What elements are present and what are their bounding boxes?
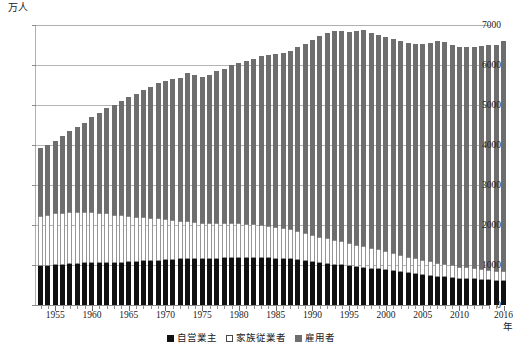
- bar-segment-family-worker: [126, 216, 131, 262]
- bar-segment-family-worker: [207, 223, 212, 259]
- x-axis-tick-label: 2010: [450, 310, 469, 321]
- bar-segment-self-employed: [259, 258, 264, 305]
- x-axis-tick-label: 1970: [156, 310, 175, 321]
- bar-segment-self-employed: [214, 259, 219, 305]
- bar-segment-employee: [148, 87, 153, 218]
- bar-segment-family-worker: [236, 223, 241, 257]
- bar-segment-family-worker: [457, 267, 462, 279]
- bar-segment-employee: [339, 31, 344, 241]
- chart-legend: 自営業主家族従業者雇用者: [0, 332, 501, 344]
- bar-segment-self-employed: [288, 259, 293, 305]
- bar-segment-employee: [97, 113, 102, 213]
- y-axis-tick-mark: [32, 305, 36, 306]
- bar-segment-employee: [383, 37, 388, 251]
- bar-segment-family-worker: [163, 219, 168, 260]
- bar-segment-self-employed: [244, 258, 249, 305]
- bar-segment-employee: [420, 44, 425, 260]
- bar-segment-self-employed: [82, 263, 87, 305]
- y-axis-tick-mark: [32, 145, 36, 146]
- x-axis-tick-mark: [379, 306, 380, 309]
- bar-segment-family-worker: [259, 225, 264, 258]
- bar-segment-self-employed: [339, 265, 344, 305]
- bar-segment-self-employed: [222, 258, 227, 305]
- bar-segment-self-employed: [75, 264, 80, 305]
- x-axis-tick-mark: [327, 306, 328, 309]
- bar-segment-family-worker: [75, 212, 80, 264]
- x-axis-tick-mark: [320, 306, 321, 309]
- x-axis-tick-mark: [305, 306, 306, 309]
- bar-segment-employee: [266, 55, 271, 226]
- legend-family-worker-swatch-icon: [226, 335, 233, 342]
- bar-segment-employee: [82, 123, 87, 212]
- x-axis-tick-label: 1990: [303, 310, 322, 321]
- x-axis-tick-mark: [114, 306, 115, 309]
- x-axis-tick-mark: [298, 306, 299, 309]
- bar-segment-employee: [112, 105, 117, 215]
- bar-segment-self-employed: [273, 259, 278, 305]
- y-axis-tick-label: 4000: [467, 140, 501, 150]
- bar-segment-employee: [317, 36, 322, 236]
- bar-segment-employee: [472, 47, 477, 268]
- x-axis-tick-label: 2005: [413, 310, 432, 321]
- bar-segment-family-worker: [60, 213, 65, 265]
- x-axis-tick-mark: [188, 306, 189, 309]
- bar-segment-family-worker: [156, 218, 161, 260]
- bar-segment-employee: [369, 33, 374, 248]
- bar-segment-employee: [310, 40, 315, 234]
- bar-segment-self-employed: [406, 273, 411, 305]
- bar-segment-self-employed: [251, 258, 256, 305]
- bar-segment-employee: [361, 30, 366, 246]
- bar-segment-self-employed: [457, 279, 462, 305]
- x-axis-tick-mark: [77, 306, 78, 309]
- bar-segment-self-employed: [38, 266, 43, 305]
- bar-segment-self-employed: [170, 260, 175, 305]
- bar-segment-employee: [479, 46, 484, 269]
- bar-segment-employee: [229, 65, 234, 223]
- bar-segment-employee: [236, 63, 241, 223]
- bar-segment-employee: [288, 51, 293, 230]
- bar-segment-self-employed: [141, 261, 146, 305]
- x-axis-tick-label: 1995: [340, 310, 359, 321]
- bar-segment-family-worker: [266, 226, 271, 258]
- legend-self-employed-swatch-icon: [167, 335, 174, 342]
- bar-segment-employee: [178, 78, 183, 221]
- bar-segment-employee: [347, 32, 352, 243]
- x-axis-tick-mark: [151, 306, 152, 309]
- bar-segment-self-employed: [97, 263, 102, 305]
- bar-segment-family-worker: [420, 260, 425, 275]
- y-axis-tick-mark: [32, 265, 36, 266]
- bar-segment-family-worker: [273, 227, 278, 259]
- x-axis-tick-mark: [121, 306, 122, 309]
- x-axis-tick-mark: [41, 306, 42, 309]
- bar-segment-employee: [185, 73, 190, 221]
- bar-segment-self-employed: [163, 260, 168, 305]
- bar-segment-employee: [435, 41, 440, 263]
- bar-segment-employee: [354, 31, 359, 244]
- x-axis-tick-mark: [70, 306, 71, 309]
- x-axis-tick-mark: [408, 306, 409, 309]
- bar-segment-employee: [273, 54, 278, 227]
- bar-segment-self-employed: [192, 259, 197, 305]
- bar-segment-self-employed: [420, 275, 425, 305]
- bar-segment-self-employed: [126, 262, 131, 305]
- bar-segment-employee: [325, 33, 330, 239]
- bar-segment-self-employed: [325, 264, 330, 305]
- bar-segment-family-worker: [38, 216, 43, 266]
- bar-segment-family-worker: [332, 240, 337, 265]
- y-axis-tick-label: 3000: [467, 180, 501, 190]
- x-axis-tick-mark: [63, 306, 64, 309]
- x-axis-tick-mark: [437, 306, 438, 309]
- bar-segment-self-employed: [119, 263, 124, 305]
- bar-segment-self-employed: [361, 268, 366, 305]
- x-axis-tick-label: 1965: [119, 310, 138, 321]
- bar-segment-self-employed: [207, 259, 212, 305]
- bar-segment-employee: [200, 77, 205, 223]
- bar-segment-self-employed: [398, 272, 403, 305]
- bar-segment-family-worker: [222, 223, 227, 258]
- bar-segment-family-worker: [67, 212, 72, 264]
- x-axis-tick-mark: [430, 306, 431, 309]
- bar-segment-self-employed: [332, 265, 337, 305]
- bar-segment-family-worker: [325, 238, 330, 264]
- x-axis-tick-mark: [445, 306, 446, 309]
- bar-segment-employee: [450, 45, 455, 265]
